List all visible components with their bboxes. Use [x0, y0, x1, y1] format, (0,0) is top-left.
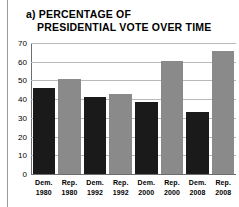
x-tick-dem-1992: Dem.1992 — [82, 178, 108, 198]
x-tick-party: Dem. — [82, 178, 108, 188]
x-tick-year: 1992 — [108, 188, 134, 198]
x-tick-party: Rep. — [159, 178, 185, 188]
x-tick-year: 1992 — [82, 188, 108, 198]
y-tick-label-70: 70 — [18, 39, 27, 48]
x-tick-rep-2000: Rep.2000 — [159, 178, 185, 198]
x-tick-year: 2008 — [185, 188, 211, 198]
bar-dem-2008 — [186, 112, 208, 174]
x-tick-year: 1980 — [57, 188, 83, 198]
chart-title-line-1: a) PERCENTAGE OF — [26, 8, 236, 21]
chart-title-line-2: PRESIDENTIAL VOTE OVER TIME — [37, 21, 236, 34]
x-tick-party: Rep. — [108, 178, 134, 188]
x-tick-year: 2000 — [159, 188, 185, 198]
bar-dem-1992 — [84, 97, 106, 174]
bar-rep-1980 — [58, 79, 80, 174]
x-tick-party: Rep. — [57, 178, 83, 188]
x-tick-dem-2008: Dem.2008 — [185, 178, 211, 198]
y-tick-label-50: 50 — [18, 76, 27, 85]
x-axis-labels: Dem.1980Rep.1980Dem.1992Rep.1992Dem.2000… — [31, 178, 236, 204]
y-tick-label-20: 20 — [18, 132, 27, 141]
y-tick-label-0: 0 — [23, 170, 27, 179]
x-tick-party: Dem. — [31, 178, 57, 188]
chart-figure: a) PERCENTAGE OF PRESIDENTIAL VOTE OVER … — [0, 0, 239, 207]
chart-title: a) PERCENTAGE OF PRESIDENTIAL VOTE OVER … — [26, 8, 236, 34]
bar-rep-2000 — [161, 61, 183, 174]
x-tick-party: Dem. — [185, 178, 211, 188]
bar-rep-2008 — [212, 51, 234, 174]
y-tick-label-10: 10 — [18, 151, 27, 160]
y-tick-label-60: 60 — [18, 57, 27, 66]
bar-dem-2000 — [135, 102, 157, 174]
x-tick-dem-1980: Dem.1980 — [31, 178, 57, 198]
column-rule — [7, 0, 8, 207]
gridline-0: 0 — [31, 174, 236, 175]
bar-dem-1980 — [33, 88, 55, 174]
x-tick-rep-1992: Rep.1992 — [108, 178, 134, 198]
x-tick-party: Rep. — [210, 178, 236, 188]
bar-rep-1992 — [109, 94, 131, 174]
x-tick-dem-2000: Dem.2000 — [134, 178, 160, 198]
plot-area: 010203040506070 — [31, 43, 236, 174]
x-tick-rep-1980: Rep.1980 — [57, 178, 83, 198]
bar-series — [31, 43, 236, 174]
y-tick-label-40: 40 — [18, 95, 27, 104]
y-tick-label-30: 30 — [18, 113, 27, 122]
x-tick-year: 2008 — [210, 188, 236, 198]
x-tick-year: 2000 — [134, 188, 160, 198]
x-tick-year: 1980 — [31, 188, 57, 198]
x-tick-party: Dem. — [134, 178, 160, 188]
x-tick-rep-2008: Rep.2008 — [210, 178, 236, 198]
